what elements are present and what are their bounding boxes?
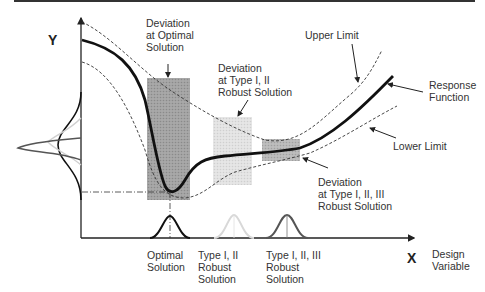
y-distribution-type123 xyxy=(18,138,81,160)
deviation-optimal-label: Deviation at Optimal Solution xyxy=(146,17,194,53)
type12-solution-label: Type I, II Robust Solution xyxy=(198,249,238,285)
x-axis-caption: Design Variable xyxy=(432,248,470,272)
arrow-upper-limit xyxy=(352,44,358,82)
x-axis-label: X xyxy=(407,250,416,266)
type12-deviation-box xyxy=(213,117,252,185)
response-function-label: Response Function xyxy=(429,79,476,103)
deviation-type123-label: Deviation at Type I, II, III Robust Solu… xyxy=(318,176,392,212)
y-axis-label: Y xyxy=(48,32,57,48)
upper-limit-label: Upper Limit xyxy=(305,29,359,41)
optimal-solution-label: Optimal Solution xyxy=(147,249,185,273)
y-distribution-optimal xyxy=(58,92,81,200)
type123-solution-label: Type I, II, III Robust Solution xyxy=(266,249,321,285)
arrow-type12-deviation xyxy=(238,100,248,116)
arrow-type123-deviation xyxy=(303,158,328,168)
arrow-response-function xyxy=(388,84,423,92)
deviation-type12-label: Deviation at Type I, II Robust Solution xyxy=(218,62,292,98)
arrow-lower-limit xyxy=(370,128,396,138)
lower-limit-label: Lower Limit xyxy=(393,140,447,152)
